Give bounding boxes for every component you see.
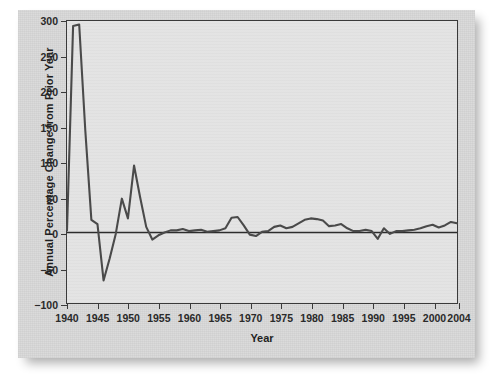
x-axis-tick [220, 303, 221, 309]
series-canvas [67, 21, 457, 303]
y-axis-tick [61, 163, 67, 164]
y-axis-tick [61, 57, 67, 58]
x-axis-tick [98, 303, 99, 309]
x-axis-title: Year [66, 332, 458, 344]
x-axis-tick [373, 303, 374, 309]
x-axis-tick-label: 1960 [178, 312, 201, 324]
x-axis-tick [281, 303, 282, 309]
x-axis-tick-label: 1970 [239, 312, 262, 324]
x-axis-tick-label: 1995 [392, 312, 415, 324]
x-axis-tick-label: 1945 [86, 312, 109, 324]
x-axis-tick [404, 303, 405, 309]
x-axis-tick [435, 303, 436, 309]
y-axis-tick [61, 270, 67, 271]
y-axis-tick-label: 150 [40, 122, 58, 134]
figure-card: Annual Percentage Change from Prior Year… [18, 10, 475, 358]
y-axis-tick-label: 50 [46, 193, 58, 205]
y-axis-tick-label: 200 [40, 86, 58, 98]
x-axis-tick [312, 303, 313, 309]
x-axis-tick-label: 1975 [270, 312, 293, 324]
y-axis-tick-label: 0 [52, 228, 58, 240]
x-axis-tick-label: 2000 [423, 312, 446, 324]
y-axis-tick-label: 100 [40, 157, 58, 169]
x-axis-tick [159, 303, 160, 309]
x-axis-tick-label: 1950 [117, 312, 140, 324]
data-line [67, 25, 457, 281]
x-axis-tick-label: 1940 [55, 312, 78, 324]
x-axis-tick-label: 1985 [331, 312, 354, 324]
chart-figure: Annual Percentage Change from Prior Year… [0, 0, 493, 377]
x-axis-tick [459, 303, 460, 309]
y-axis-tick [61, 128, 67, 129]
x-axis-tick [343, 303, 344, 309]
x-axis-tick-label: 1955 [147, 312, 170, 324]
x-axis-tick-label: 1965 [208, 312, 231, 324]
y-axis-tick-label: 300 [40, 15, 58, 27]
x-axis-tick-label: 1990 [362, 312, 385, 324]
x-axis-tick [190, 303, 191, 309]
y-axis-tick [61, 199, 67, 200]
y-axis-tick [61, 92, 67, 93]
x-axis-tick [128, 303, 129, 309]
x-axis-tick-label: 2004 [447, 312, 470, 324]
y-axis-tick-label: 250 [40, 51, 58, 63]
y-axis-tick-label: −50 [40, 264, 58, 276]
y-axis-tick [61, 234, 67, 235]
plot-area: −100−50050100150200250300194019451950195… [66, 20, 458, 304]
y-axis-tick [61, 21, 67, 22]
x-axis-tick-label: 1980 [300, 312, 323, 324]
x-axis-tick [67, 303, 68, 309]
y-axis-tick-label: −100 [34, 299, 58, 311]
x-axis-tick [251, 303, 252, 309]
